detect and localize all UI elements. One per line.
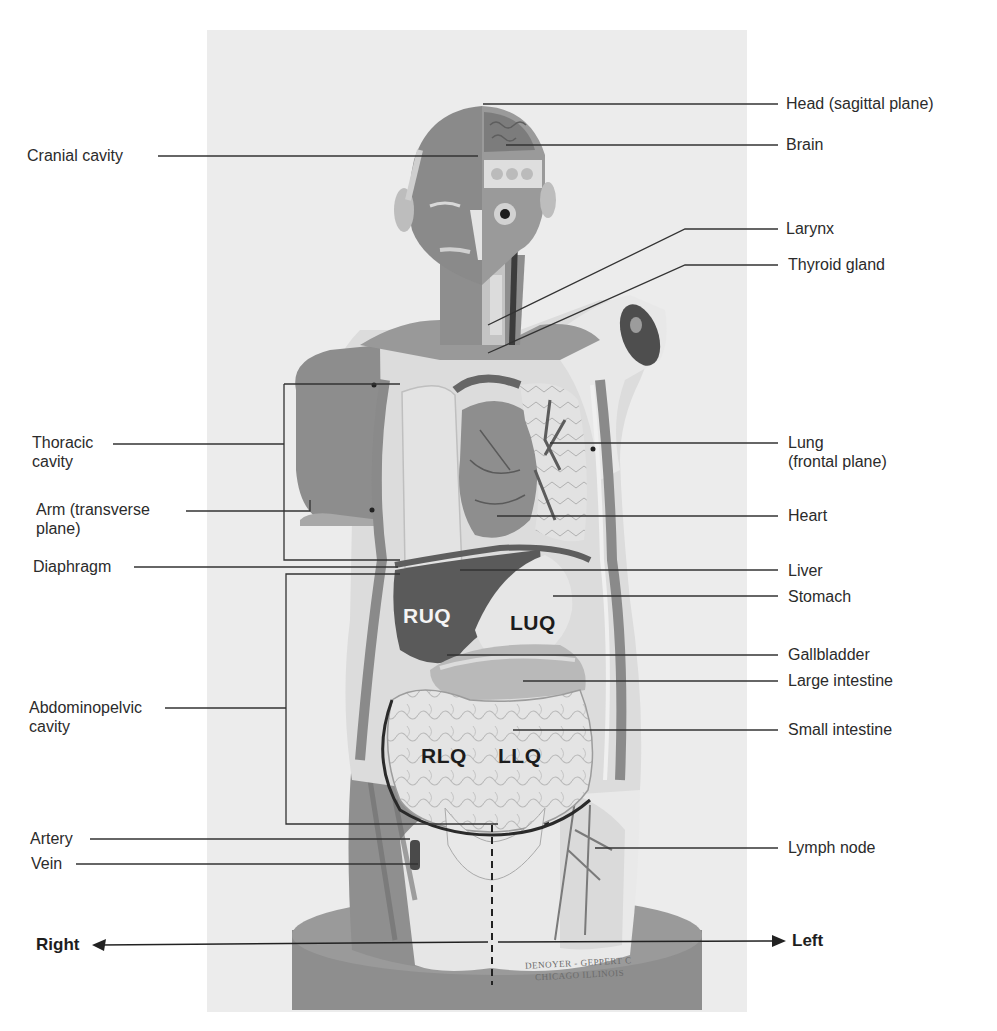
label-thoracic-cavity: Thoracic cavity bbox=[32, 433, 93, 471]
leader-arm bbox=[186, 500, 310, 511]
label-stomach: Stomach bbox=[788, 587, 851, 606]
label-thyroid-gland: Thyroid gland bbox=[788, 255, 885, 274]
label-arm: Arm (transverse plane) bbox=[36, 500, 150, 538]
label-abdominopelvic-cavity: Abdominopelvic cavity bbox=[29, 698, 142, 736]
head-model bbox=[394, 106, 556, 345]
label-liver: Liver bbox=[788, 561, 823, 580]
quadrant-llq: LLQ bbox=[498, 744, 542, 768]
label-vein: Vein bbox=[31, 854, 62, 873]
label-gallbladder: Gallbladder bbox=[788, 645, 870, 664]
quadrant-rlq: RLQ bbox=[421, 744, 467, 768]
label-brain: Brain bbox=[786, 135, 823, 154]
label-head-sagittal-plane: Head (sagittal plane) bbox=[786, 94, 934, 113]
quadrant-ruq: RUQ bbox=[403, 604, 451, 628]
label-larynx: Larynx bbox=[786, 219, 834, 238]
label-lung-frontal-plane: Lung (frontal plane) bbox=[788, 433, 887, 471]
label-heart: Heart bbox=[788, 506, 827, 525]
arrowhead-right bbox=[92, 939, 106, 951]
label-cranial-cavity: Cranial cavity bbox=[27, 146, 123, 165]
label-large-intestine: Large intestine bbox=[788, 671, 893, 690]
label-lymph-node: Lymph node bbox=[788, 838, 875, 857]
label-artery: Artery bbox=[30, 829, 73, 848]
label-diaphragm: Diaphragm bbox=[33, 557, 111, 576]
anatomy-figure: DENOYER - GEPPERT C CHICAGO ILLINOIS Cra… bbox=[0, 0, 997, 1031]
direction-right-label: Right bbox=[36, 935, 79, 955]
label-small-intestine: Small intestine bbox=[788, 720, 892, 739]
quadrant-luq: LUQ bbox=[510, 611, 556, 635]
direction-left-label: Left bbox=[792, 931, 823, 951]
arrowhead-left bbox=[772, 935, 786, 947]
